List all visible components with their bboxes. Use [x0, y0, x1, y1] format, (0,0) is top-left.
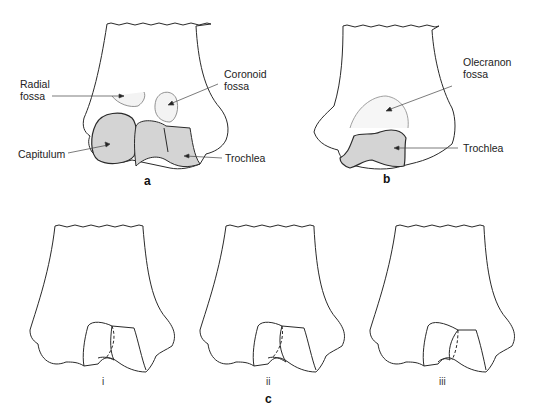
label-radial-fossa: Radial fossa: [20, 78, 50, 102]
panel-letter-b: b: [383, 172, 390, 186]
subpanel-label-i: i: [102, 376, 104, 387]
coronoid-fossa: [155, 92, 178, 122]
label-trochlea-b: Trochlea: [463, 142, 503, 154]
panel-c-iii-bone: [370, 225, 514, 372]
label-olecranon-fossa: Olecranon fossa: [463, 56, 511, 80]
panel-c-i-bone: [30, 225, 174, 372]
label-trochlea-a: Trochlea: [225, 152, 265, 164]
subpanel-label-ii: ii: [266, 376, 270, 387]
panel-letter-a: a: [144, 174, 151, 188]
label-coronoid-fossa: Coronoid fossa: [224, 68, 267, 92]
label-capitulum: Capitulum: [18, 148, 65, 160]
panel-letter-c: c: [265, 392, 272, 406]
trochlea-shaded-a: [135, 121, 201, 167]
distal-humerus-diagram: [0, 0, 536, 414]
subpanel-label-iii: iii: [439, 376, 446, 387]
panel-c-ii-bone: [200, 225, 344, 372]
capitulum-shaded: [92, 113, 137, 163]
